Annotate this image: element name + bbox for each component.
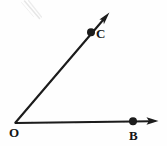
diagram-canvas	[0, 0, 167, 146]
angle-diagram-figure: O B C	[0, 0, 167, 146]
vertex-label-O: O	[9, 126, 19, 139]
point-C-dot	[87, 28, 95, 36]
point-label-B: B	[129, 129, 138, 142]
point-label-C: C	[96, 27, 105, 40]
point-B-dot	[129, 117, 137, 125]
figure-background	[0, 0, 167, 146]
